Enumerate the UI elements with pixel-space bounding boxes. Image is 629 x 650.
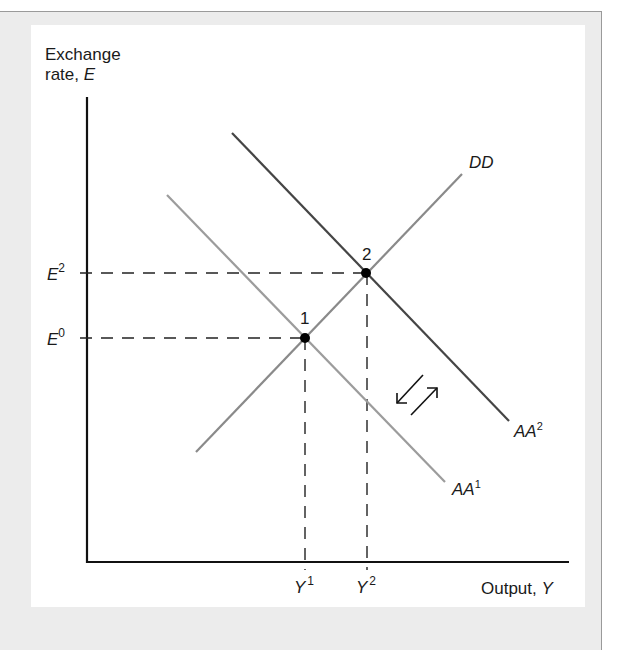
x-axis-label: Output, Y xyxy=(481,579,554,598)
y-axis-label-line2: rate, E xyxy=(45,65,96,84)
aa2-curve xyxy=(232,133,509,421)
y2-label: Y2 xyxy=(356,574,376,597)
point-2-label: 2 xyxy=(362,245,371,264)
y1-label: Y1 xyxy=(294,574,314,597)
equilibrium-point-1 xyxy=(300,333,310,343)
y-axis-label-line1: Exchange xyxy=(45,45,121,64)
dd-curve xyxy=(196,174,462,452)
point-1-label: 1 xyxy=(300,309,309,328)
dd-label: DD xyxy=(469,153,494,172)
aa2-label: AA2 xyxy=(513,420,543,441)
e2-label: E2 xyxy=(47,261,65,284)
e0-label: E0 xyxy=(47,326,65,349)
shift-arrows-icon xyxy=(397,375,437,415)
aa1-label: AA1 xyxy=(451,478,481,499)
equilibrium-point-2 xyxy=(361,268,371,278)
